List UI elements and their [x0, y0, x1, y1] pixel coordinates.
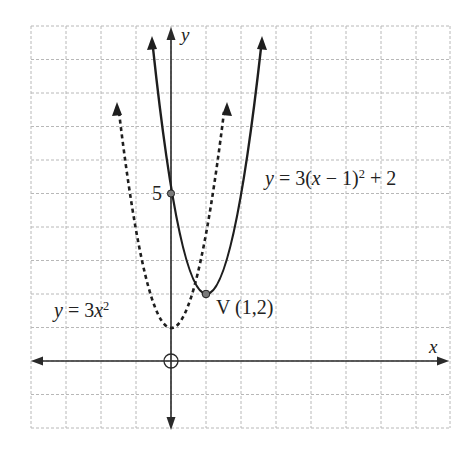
translated-eq-x: x [312, 167, 321, 189]
y-axis-up-arrow-icon [167, 27, 176, 40]
base-eq-mid: = 3 [63, 299, 94, 321]
translated-eq-part-c: + 2 [365, 167, 396, 189]
base-eq-x: x [94, 299, 103, 321]
y-intercept-point [167, 190, 174, 197]
x-axis-label: x [429, 337, 437, 356]
solid-curve-left-arrow-icon [147, 36, 157, 50]
graph-canvas [0, 0, 472, 453]
grid [31, 26, 450, 428]
translated-eq-part-b: − 1) [321, 167, 359, 189]
vertex-coords: (1,2) [235, 296, 273, 318]
solid-curve-right-arrow-icon [257, 36, 267, 50]
dotted-curve-left-arrow-icon [112, 102, 122, 116]
translated-equation-label: y = 3(x − 1)2 + 2 [265, 168, 396, 188]
translated-eq-lhs: y [265, 167, 274, 189]
base-equation-label: y = 3x2 [54, 300, 109, 320]
x-axis-right-arrow-icon [437, 357, 449, 366]
vertex-prefix: V [216, 296, 230, 318]
axes [31, 27, 449, 430]
vertex-point [202, 290, 210, 298]
base-eq-exponent: 2 [103, 299, 109, 313]
x-axis-left-arrow-icon [31, 357, 43, 366]
base-eq-lhs: y [54, 299, 63, 321]
vertex-label: V (1,2) [216, 297, 273, 317]
translated-eq-part-a: = 3( [274, 167, 312, 189]
y-axis-label: y [181, 25, 189, 44]
dotted-curve-right-arrow-icon [222, 102, 232, 116]
y-intercept-label: 5 [152, 183, 162, 203]
curve-translated-parabola [147, 36, 267, 294]
